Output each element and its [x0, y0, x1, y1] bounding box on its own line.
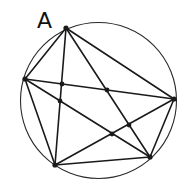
vertex-a [63, 25, 68, 30]
edges-group [25, 28, 174, 165]
intersection-point-1 [60, 82, 65, 87]
intersection-point-2 [58, 99, 63, 104]
vertex-d [147, 154, 152, 159]
edge-a-e [55, 28, 66, 165]
vertex-e [52, 162, 57, 167]
edge-e-d [55, 157, 150, 165]
edge-a-d [66, 28, 150, 157]
circumscribed-circle [21, 23, 177, 179]
edge-c-a [66, 28, 174, 99]
intersection-point-5 [127, 123, 132, 128]
edge-d-c [150, 99, 174, 157]
diagram-canvas [0, 0, 188, 188]
vertex-b [22, 76, 27, 81]
edge-b-d [25, 79, 150, 157]
vertex-label-a: A [37, 10, 52, 32]
vertex-c [171, 96, 176, 101]
edge-a-b [25, 28, 66, 79]
intersection-point-4 [110, 132, 115, 137]
intersection-point-3 [105, 88, 110, 93]
edge-b-c [25, 79, 174, 99]
